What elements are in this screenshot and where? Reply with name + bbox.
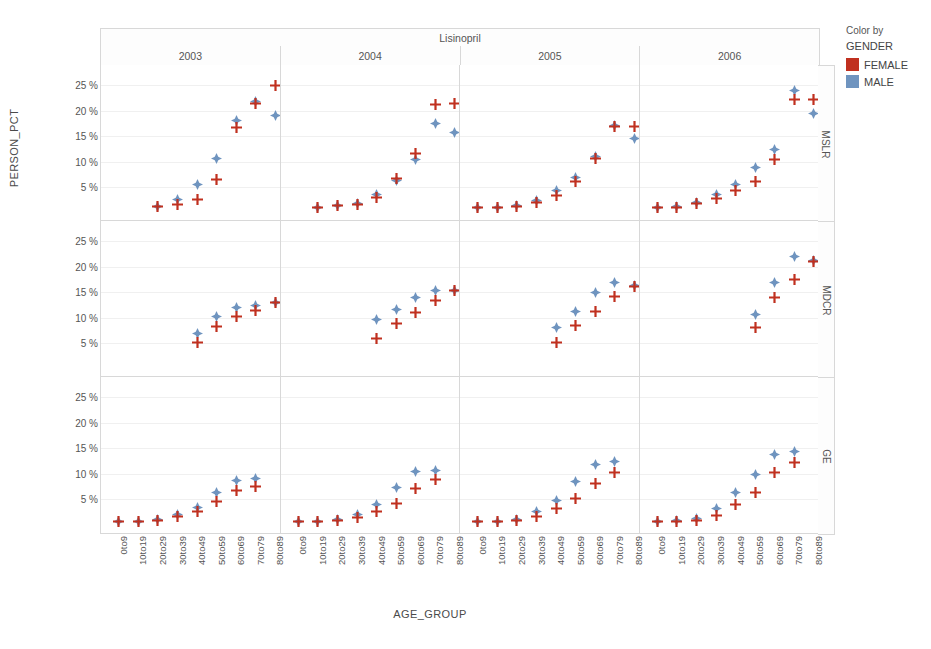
x-tick-40to49: 40to49 [555, 536, 566, 565]
data-point [531, 511, 542, 522]
data-point [730, 499, 741, 510]
data-point [769, 467, 780, 478]
gridline [460, 343, 639, 344]
x-tick-20to29: 20to29 [516, 536, 527, 565]
gridline [640, 318, 820, 319]
gridline [281, 499, 460, 500]
x-tick-20to29: 20to29 [336, 536, 347, 565]
data-point [551, 337, 562, 348]
data-point [730, 185, 741, 196]
x-tick-50to59: 50to59 [395, 536, 406, 565]
gridline [460, 187, 639, 188]
x-tick-20to29: 20to29 [695, 536, 706, 565]
gridline [101, 136, 280, 137]
data-point [472, 516, 483, 527]
data-point [293, 516, 304, 527]
legend-title: Color by [846, 24, 931, 38]
x-tick-50to59: 50to59 [575, 536, 586, 565]
data-point [449, 98, 460, 109]
data-point [449, 127, 460, 138]
data-point [231, 485, 242, 496]
data-point [192, 337, 203, 348]
data-point [410, 483, 421, 494]
data-point [511, 515, 522, 526]
data-point [371, 333, 382, 344]
legend-item-female[interactable]: FEMALE [846, 56, 931, 73]
data-point [371, 506, 382, 517]
data-point [570, 306, 581, 317]
x-tick-0to9: 0to9 [656, 536, 667, 555]
data-point [750, 487, 761, 498]
x-tick-50to59: 50to59 [754, 536, 765, 565]
legend: Color by GENDER FEMALEMALE [846, 24, 931, 90]
data-point [352, 512, 363, 523]
gridline [640, 474, 820, 475]
gridline [640, 111, 820, 112]
data-point [371, 192, 382, 203]
x-tick-30to39: 30to39 [177, 536, 188, 565]
x-tick-group-2003: 0to910to1920to2930to3940to4950to5960to69… [100, 534, 280, 604]
y-tick-MSLR-15: 15 % [56, 131, 98, 142]
data-point [113, 516, 124, 527]
gridline [101, 267, 280, 268]
data-point [551, 322, 562, 333]
y-tick-MSLR-25: 25 % [56, 80, 98, 91]
y-tick-MSLR-5: 5 % [56, 182, 98, 193]
row-header-label: MDCR [821, 285, 832, 315]
row-header-MDCR: MDCR [818, 221, 835, 379]
data-point [652, 516, 663, 527]
column-header-2005: 2005 [461, 46, 641, 65]
data-point [250, 481, 261, 492]
x-tick-60to69: 60to69 [235, 536, 246, 565]
chart-title-strip: Lisinopril [100, 28, 820, 47]
data-point [492, 202, 503, 213]
gridline [460, 499, 639, 500]
row-header-label: GE [820, 449, 831, 463]
data-point [391, 482, 402, 493]
y-tick-MDCR-5: 5 % [56, 338, 98, 349]
column-header-strip: 2003200420052006 [100, 46, 820, 66]
y-tick-MDCR-15: 15 % [56, 287, 98, 298]
gridline [101, 111, 280, 112]
legend-swatch-male [846, 75, 859, 88]
legend-item-male[interactable]: MALE [846, 73, 931, 90]
data-point [231, 311, 242, 322]
data-point [430, 99, 441, 110]
data-point [410, 466, 421, 477]
data-point [410, 307, 421, 318]
data-point [590, 459, 601, 470]
gridline [101, 292, 280, 293]
gridline [281, 136, 460, 137]
x-tick-group-2005: 0to910to1920to2930to3940to4950to5960to69… [459, 534, 639, 604]
gridline [460, 448, 639, 449]
data-point [609, 291, 620, 302]
panel-grid [100, 65, 820, 534]
panel-MDCR-2003 [101, 221, 281, 377]
data-point [231, 122, 242, 133]
panel-GE-2003 [101, 377, 281, 533]
panel-GE-2004 [281, 377, 461, 533]
x-tick-group-2006: 0to910to1920to2930to3940to4950to5960to69… [639, 534, 819, 604]
panel-MSLR-2003 [101, 65, 281, 221]
gridline [460, 85, 639, 86]
y-axis-title: PERSON_PCT [8, 68, 20, 228]
data-point [391, 304, 402, 315]
data-point [231, 475, 242, 486]
gridline [281, 448, 460, 449]
gridline [460, 136, 639, 137]
gridline [101, 187, 280, 188]
data-point [250, 98, 261, 109]
gridline [101, 241, 280, 242]
data-point [671, 516, 682, 527]
data-point [789, 457, 800, 468]
data-point [430, 118, 441, 129]
gridline [460, 241, 639, 242]
data-point [570, 476, 581, 487]
data-point [750, 309, 761, 320]
gridline [640, 343, 820, 344]
data-point [711, 193, 722, 204]
data-point [590, 478, 601, 489]
x-axis-title: AGE_GROUP [0, 608, 860, 620]
gridline [101, 423, 280, 424]
y-tick-GE-5: 5 % [56, 494, 98, 505]
